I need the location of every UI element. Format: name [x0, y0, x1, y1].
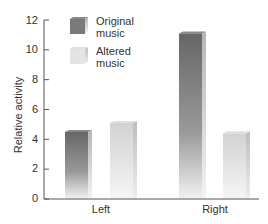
bar-right-original	[179, 33, 202, 199]
legend-swatches	[70, 17, 88, 64]
legend-swatch-side	[85, 17, 88, 34]
bar-top-face	[179, 31, 206, 33]
bar-chart: Relative activity 0 2 4 6 8 10 12 Left R…	[0, 0, 268, 224]
y-ticks	[44, 20, 49, 199]
legend-altered-line1: Altered	[96, 45, 131, 57]
bar-left-original	[65, 132, 88, 199]
bar-side-face	[202, 31, 206, 199]
legend-swatch-side	[85, 47, 88, 64]
bar-top-face	[223, 131, 250, 133]
legend-original-label: Original music	[96, 15, 134, 39]
bar-side-face	[246, 131, 250, 199]
legend-altered-label: Altered music	[96, 45, 131, 69]
y-tick-label: 0	[22, 192, 38, 204]
legend-original-line1: Original	[96, 15, 134, 27]
legend-swatch-altered	[70, 49, 85, 64]
y-tick-label: 10	[22, 43, 38, 55]
y-tick-label: 12	[22, 14, 38, 26]
bars-group	[65, 31, 250, 199]
bar-left-altered	[110, 123, 133, 199]
legend-swatch-top	[70, 17, 88, 19]
bar-top-face	[65, 130, 92, 132]
chart-canvas	[0, 0, 268, 224]
bar-side-face	[133, 121, 137, 199]
y-tick-label: 6	[22, 103, 38, 115]
bar-top-face	[110, 121, 137, 123]
bar-right-altered	[223, 133, 246, 199]
legend-swatch-original	[70, 19, 85, 34]
x-category-left: Left	[92, 203, 110, 215]
x-category-right: Right	[202, 203, 228, 215]
legend-altered-line2: music	[96, 57, 131, 69]
y-tick-label: 2	[22, 162, 38, 174]
legend-swatch-top	[70, 47, 88, 49]
legend-original-line2: music	[96, 27, 134, 39]
y-tick-label: 4	[22, 133, 38, 145]
bar-side-face	[88, 130, 92, 199]
y-tick-label: 8	[22, 73, 38, 85]
